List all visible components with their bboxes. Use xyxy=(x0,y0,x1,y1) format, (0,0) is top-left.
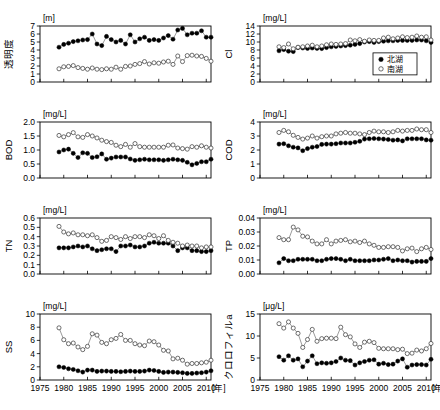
data-point-open xyxy=(348,240,352,244)
data-point-filled xyxy=(362,137,366,141)
data-point-open xyxy=(152,61,156,65)
data-point-filled xyxy=(114,250,118,254)
data-point-open xyxy=(400,35,404,39)
xtick-label: 2000 xyxy=(149,383,168,393)
xtick-label: 1980 xyxy=(54,383,73,393)
data-point-filled xyxy=(334,257,338,261)
xtick-label: 1980 xyxy=(274,383,293,393)
data-point-open xyxy=(114,236,118,240)
water-quality-figure: 01234567[m]透明度02468101214[mg/L]Cl北湖南湖0.0… xyxy=(0,0,440,410)
data-point-open xyxy=(315,339,319,343)
data-point-open xyxy=(343,42,347,46)
data-point-filled xyxy=(128,369,132,373)
data-point-filled xyxy=(104,34,108,38)
data-point-filled xyxy=(90,368,94,372)
ytick-label: 10 xyxy=(26,309,36,319)
data-point-filled xyxy=(95,369,99,373)
series-line-filled xyxy=(59,28,211,47)
panel-cod: 01234[mg/L]COD xyxy=(220,104,440,200)
data-point-open xyxy=(296,45,300,49)
data-point-filled xyxy=(429,257,433,261)
ytick-label: 15 xyxy=(246,309,256,319)
data-point-open xyxy=(386,347,390,351)
data-point-filled xyxy=(358,42,362,46)
data-point-filled xyxy=(81,370,85,374)
data-point-filled xyxy=(391,362,395,366)
data-point-filled xyxy=(343,358,347,362)
data-point-open xyxy=(199,361,203,365)
ytick-label: 0.6 xyxy=(23,213,35,223)
data-point-filled xyxy=(171,157,175,161)
data-point-open xyxy=(419,247,423,251)
data-point-open xyxy=(152,145,156,149)
data-point-open xyxy=(429,341,433,345)
data-point-filled xyxy=(114,155,118,159)
data-point-filled xyxy=(62,148,66,152)
data-point-filled xyxy=(343,259,347,263)
data-point-filled xyxy=(291,259,295,263)
data-point-filled xyxy=(296,257,300,261)
data-point-open xyxy=(57,326,61,330)
data-point-open xyxy=(353,239,357,243)
data-point-filled xyxy=(138,158,142,162)
data-point-filled xyxy=(190,249,194,253)
unit-label-bod: [mg/L] xyxy=(43,109,67,119)
xtick-label: 1990 xyxy=(322,383,341,393)
data-point-open xyxy=(109,235,113,239)
data-point-filled xyxy=(362,259,366,263)
data-point-open xyxy=(185,54,189,58)
data-point-filled xyxy=(95,155,99,159)
data-point-open xyxy=(296,228,300,232)
data-point-filled xyxy=(147,38,151,42)
panel-cl: 02468101214[mg/L]Cl北湖南湖 xyxy=(220,8,440,104)
data-point-open xyxy=(301,234,305,238)
data-point-open xyxy=(199,246,203,250)
data-point-filled xyxy=(199,29,203,33)
data-point-filled xyxy=(301,365,305,369)
data-point-filled xyxy=(66,147,70,151)
data-point-filled xyxy=(286,354,290,358)
data-point-filled xyxy=(367,137,371,141)
y-axis-title-tn: TN xyxy=(3,240,14,253)
data-point-filled xyxy=(305,147,309,151)
ytick-label: 0.03 xyxy=(238,227,255,237)
data-point-filled xyxy=(324,257,328,261)
data-point-filled xyxy=(166,158,170,162)
data-point-open xyxy=(180,60,184,64)
data-point-filled xyxy=(372,358,376,362)
data-point-filled xyxy=(400,259,404,263)
data-point-filled xyxy=(400,139,404,143)
data-point-filled xyxy=(301,149,305,153)
data-point-filled xyxy=(157,158,161,162)
data-point-open xyxy=(320,337,324,341)
ytick-label: 6 xyxy=(30,335,35,345)
data-point-filled xyxy=(100,369,104,373)
unit-label-cl: [mg/L] xyxy=(263,13,287,23)
data-point-filled xyxy=(57,246,61,250)
data-point-open xyxy=(320,44,324,48)
data-point-filled xyxy=(171,37,175,41)
ytick-label: 0.3 xyxy=(23,241,35,251)
data-point-open xyxy=(176,241,180,245)
legend-label: 南湖 xyxy=(387,64,403,74)
data-point-filled xyxy=(209,369,213,373)
data-point-filled xyxy=(301,257,305,261)
data-point-filled xyxy=(396,138,400,142)
data-point-filled xyxy=(324,361,328,365)
data-point-filled xyxy=(71,40,75,44)
data-point-open xyxy=(353,39,357,43)
data-point-open xyxy=(348,131,352,135)
data-point-filled xyxy=(161,36,165,40)
data-point-open xyxy=(104,342,108,346)
data-point-open xyxy=(310,43,314,47)
data-point-filled xyxy=(57,150,61,154)
data-point-open xyxy=(320,135,324,139)
data-point-open xyxy=(310,134,314,138)
data-point-filled xyxy=(138,245,142,249)
data-point-open xyxy=(353,131,357,135)
data-point-open xyxy=(185,147,189,151)
data-point-open xyxy=(138,62,142,66)
data-point-filled xyxy=(142,35,146,39)
data-point-filled xyxy=(123,369,127,373)
data-point-filled xyxy=(324,142,328,146)
